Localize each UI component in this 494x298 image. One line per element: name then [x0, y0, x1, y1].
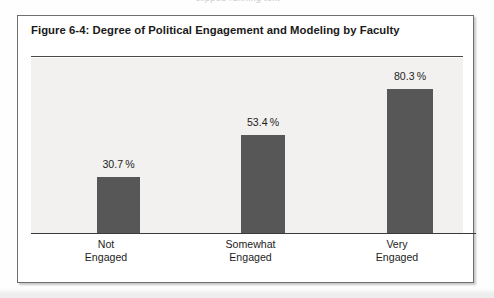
page-text-bleed-line: clipped running text	[196, 0, 280, 3]
bar-not-engaged	[97, 177, 140, 234]
bar-value-label-very-engaged: 80.3 %	[378, 70, 442, 82]
category-label-line2: Engaged	[355, 251, 439, 264]
figure-title: Figure 6-4: Degree of Political Engageme…	[31, 24, 400, 36]
figure-box: Figure 6-4: Degree of Political Engageme…	[17, 15, 474, 283]
bar-very-engaged	[387, 89, 433, 234]
category-label-line2: Engaged	[207, 251, 294, 264]
chart-baseline-axis	[31, 233, 476, 234]
category-label-not-engaged: Not Engaged	[67, 238, 145, 264]
category-label-line1: Not	[67, 238, 145, 251]
category-label-very-engaged: Very Engaged	[355, 238, 439, 264]
bar-value-label-not-engaged: 30.7 %	[88, 158, 149, 170]
scan-shadow	[0, 288, 494, 298]
bar-value-label-somewhat-engaged: 53.4 %	[232, 116, 294, 128]
page-text-bleed: clipped running text	[0, 0, 494, 9]
category-label-line1: Very	[355, 238, 439, 251]
title-divider	[31, 56, 463, 57]
category-label-somewhat-engaged: Somewhat Engaged	[207, 238, 294, 264]
category-label-line1: Somewhat	[207, 238, 294, 251]
chart-plot-area: 30.7 % 53.4 % 80.3 %	[31, 58, 463, 234]
category-label-line2: Engaged	[67, 251, 145, 264]
bar-somewhat-engaged	[241, 135, 285, 234]
